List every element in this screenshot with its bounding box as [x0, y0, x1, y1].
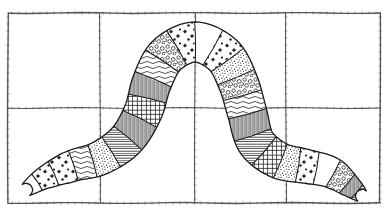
worm-arch-illustration	[0, 0, 389, 212]
figure-canvas	[0, 0, 389, 212]
